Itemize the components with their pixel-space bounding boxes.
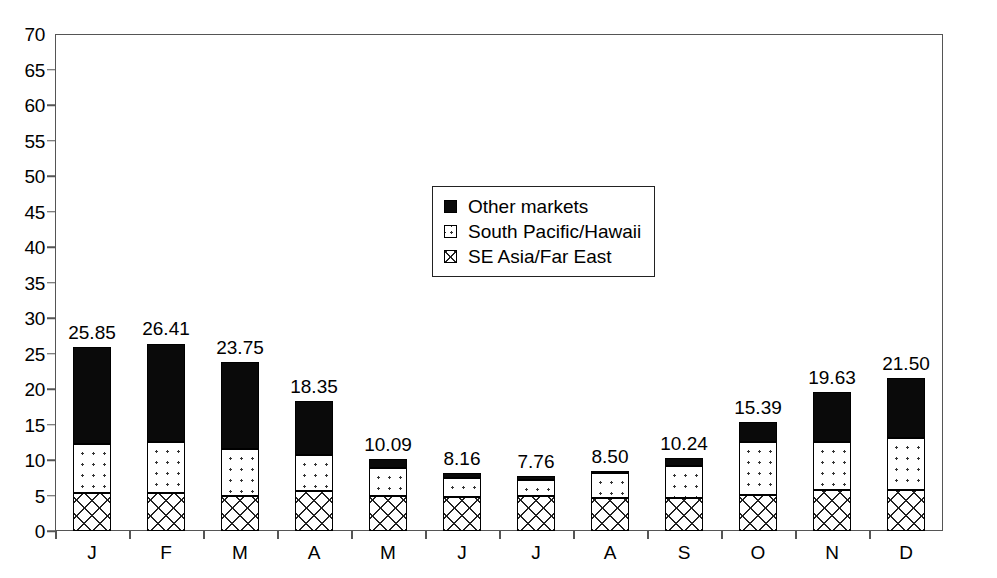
bar-segment-se[interactable]: [369, 496, 407, 531]
bar-1[interactable]: [147, 344, 185, 532]
bar-value-label: 21.50: [882, 354, 930, 373]
x-axis-label-5: J: [457, 543, 467, 562]
y-axis-tick-mark: [47, 104, 55, 106]
bar-value-label: 8.16: [444, 449, 481, 468]
x-axis-tick-mark: [129, 531, 131, 539]
bar-segment-south[interactable]: [813, 442, 851, 490]
bar-segment-south[interactable]: [295, 455, 333, 491]
bar-value-label: 18.35: [290, 377, 338, 396]
x-axis-tick-mark: [351, 531, 353, 539]
legend-item-label: Other markets: [468, 197, 588, 216]
y-axis-tick-label: 0: [35, 522, 45, 541]
y-axis-tick-label: 10: [24, 451, 45, 470]
legend-swatch-icon: [444, 200, 457, 213]
bar-value-label: 8.50: [592, 447, 629, 466]
bar-segment-se[interactable]: [591, 498, 629, 531]
bar-segment-south[interactable]: [517, 480, 555, 496]
x-axis-label-10: N: [825, 543, 839, 562]
y-axis-tick-mark: [47, 246, 55, 248]
bar-segment-south[interactable]: [665, 466, 703, 498]
bar-0[interactable]: [73, 347, 111, 531]
x-axis-tick-mark: [721, 531, 723, 539]
bar-segment-other[interactable]: [887, 378, 925, 438]
y-axis-tick-mark: [47, 424, 55, 426]
bar-5[interactable]: [443, 473, 481, 531]
y-axis-tick-mark: [47, 353, 55, 355]
bar-segment-other[interactable]: [369, 459, 407, 467]
bar-segment-se[interactable]: [665, 498, 703, 531]
bar-segment-other[interactable]: [739, 422, 777, 443]
bar-value-label: 15.39: [734, 398, 782, 417]
bar-value-label: 25.85: [68, 323, 116, 342]
y-axis-tick-mark: [47, 282, 55, 284]
y-axis-tick-mark: [47, 69, 55, 71]
bar-segment-other[interactable]: [443, 473, 481, 478]
bar-value-label: 23.75: [216, 338, 264, 357]
y-axis-tick-label: 60: [24, 96, 45, 115]
bar-segment-se[interactable]: [73, 493, 111, 531]
y-axis-tick-mark: [47, 140, 55, 142]
bar-value-label: 10.24: [660, 434, 708, 453]
bar-segment-other[interactable]: [813, 392, 851, 443]
bar-segment-south[interactable]: [887, 438, 925, 490]
y-axis-tick-mark: [47, 530, 55, 532]
y-axis-tick-label: 50: [24, 167, 45, 186]
y-axis-tick-mark: [47, 388, 55, 390]
bar-9[interactable]: [739, 422, 777, 531]
bar-segment-other[interactable]: [295, 401, 333, 455]
legend-swatch-icon: [444, 225, 457, 238]
bar-segment-other[interactable]: [147, 344, 185, 443]
bar-segment-south[interactable]: [443, 478, 481, 497]
bar-segment-south[interactable]: [739, 442, 777, 495]
stacked-bar-chart: 7065605550454035302520151050 25.8526.412…: [0, 0, 997, 578]
bar-2[interactable]: [221, 362, 259, 531]
bar-3[interactable]: [295, 401, 333, 531]
x-axis-tick-mark: [203, 531, 205, 539]
legend-item-label: South Pacific/Hawaii: [468, 222, 641, 241]
bar-segment-other[interactable]: [665, 458, 703, 465]
bar-segment-other[interactable]: [591, 471, 629, 473]
legend-item-se[interactable]: SE Asia/Far East: [444, 244, 641, 269]
y-axis-tick-label: 15: [24, 415, 45, 434]
bar-segment-other[interactable]: [221, 362, 259, 449]
x-axis-tick-mark: [277, 531, 279, 539]
x-axis-label-9: O: [751, 543, 766, 562]
bar-6[interactable]: [517, 476, 555, 531]
bar-segment-se[interactable]: [221, 496, 259, 531]
legend-item-south[interactable]: South Pacific/Hawaii: [444, 219, 641, 244]
y-axis-tick-label: 45: [24, 202, 45, 221]
y-axis-tick-mark: [47, 211, 55, 213]
bar-value-label: 26.41: [142, 319, 190, 338]
bar-7[interactable]: [591, 471, 629, 531]
x-axis-label-8: S: [678, 543, 691, 562]
bar-segment-other[interactable]: [73, 347, 111, 444]
x-axis-label-6: J: [531, 543, 541, 562]
bar-segment-other[interactable]: [517, 476, 555, 480]
bar-8[interactable]: [665, 458, 703, 531]
bar-11[interactable]: [887, 378, 925, 531]
bar-segment-se[interactable]: [295, 491, 333, 531]
bar-segment-south[interactable]: [591, 473, 629, 498]
bar-segment-south[interactable]: [369, 468, 407, 496]
bar-segment-se[interactable]: [443, 497, 481, 531]
x-axis-label-4: M: [380, 543, 396, 562]
legend-item-other[interactable]: Other markets: [444, 194, 641, 219]
x-axis-label-1: F: [160, 543, 172, 562]
x-axis-label-0: J: [87, 543, 97, 562]
x-axis-tick-mark: [869, 531, 871, 539]
bar-segment-se[interactable]: [813, 490, 851, 531]
bar-segment-se[interactable]: [147, 493, 185, 531]
bar-segment-se[interactable]: [739, 495, 777, 531]
y-axis: 7065605550454035302520151050: [0, 0, 55, 578]
x-axis-tick-mark: [795, 531, 797, 539]
bar-10[interactable]: [813, 392, 851, 531]
bar-value-label: 7.76: [518, 452, 555, 471]
x-axis-tick-mark: [55, 531, 57, 539]
bar-segment-south[interactable]: [221, 449, 259, 496]
bar-segment-se[interactable]: [887, 490, 925, 531]
chart-legend: Other marketsSouth Pacific/HawaiiSE Asia…: [432, 186, 655, 277]
bar-segment-south[interactable]: [73, 444, 111, 493]
bar-segment-se[interactable]: [517, 496, 555, 531]
bar-4[interactable]: [369, 459, 407, 531]
bar-segment-south[interactable]: [147, 442, 185, 493]
